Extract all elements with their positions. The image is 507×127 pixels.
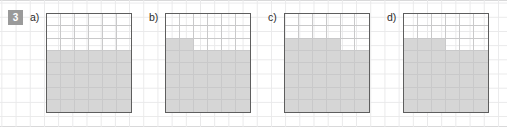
grid-cell bbox=[432, 88, 446, 100]
grid-cell bbox=[418, 75, 432, 87]
grid-cell bbox=[236, 14, 250, 26]
grid-cell bbox=[285, 63, 299, 75]
grid-cell bbox=[61, 51, 75, 63]
panel-b: b) bbox=[149, 11, 261, 117]
grid-cell bbox=[117, 75, 131, 87]
grid-cell bbox=[89, 63, 103, 75]
grid-cell bbox=[47, 100, 61, 112]
page-rule-bottom bbox=[0, 126, 507, 127]
grid-cell bbox=[313, 26, 327, 38]
grid-cell bbox=[418, 39, 432, 51]
grid-cell bbox=[180, 88, 194, 100]
panel-c-box bbox=[284, 13, 370, 113]
grid-cell bbox=[89, 14, 103, 26]
grid-cell bbox=[103, 26, 117, 38]
grid-cell bbox=[460, 39, 474, 51]
grid-cell bbox=[75, 26, 89, 38]
grid-cell bbox=[299, 75, 313, 87]
grid-cell bbox=[404, 39, 418, 51]
panel-c-grid bbox=[285, 14, 369, 112]
grid-cell bbox=[47, 39, 61, 51]
grid-cell bbox=[327, 63, 341, 75]
grid-cell bbox=[313, 100, 327, 112]
grid-cell bbox=[404, 51, 418, 63]
grid-cell bbox=[474, 39, 488, 51]
grid-cell bbox=[61, 100, 75, 112]
grid-cell bbox=[194, 75, 208, 87]
grid-cell bbox=[418, 63, 432, 75]
grid-cell bbox=[166, 14, 180, 26]
grid-cell bbox=[418, 51, 432, 63]
grid-cell bbox=[117, 100, 131, 112]
grid-cell bbox=[166, 26, 180, 38]
grid-cell bbox=[180, 26, 194, 38]
grid-cell bbox=[355, 100, 369, 112]
grid-cell bbox=[313, 14, 327, 26]
grid-cell bbox=[117, 51, 131, 63]
grid-cell bbox=[460, 26, 474, 38]
grid-cell bbox=[327, 51, 341, 63]
grid-cell bbox=[446, 63, 460, 75]
grid-cell bbox=[418, 88, 432, 100]
grid-cell bbox=[222, 63, 236, 75]
grid-cell bbox=[208, 51, 222, 63]
grid-cell bbox=[432, 63, 446, 75]
grid-cell bbox=[299, 39, 313, 51]
grid-cell bbox=[474, 63, 488, 75]
grid-cell bbox=[208, 26, 222, 38]
grid-cell bbox=[180, 63, 194, 75]
panel-a-box bbox=[46, 13, 132, 113]
panel-b-grid bbox=[166, 14, 250, 112]
grid-cell bbox=[47, 14, 61, 26]
grid-cell bbox=[446, 100, 460, 112]
grid-cell bbox=[446, 39, 460, 51]
grid-cell bbox=[355, 14, 369, 26]
grid-cell bbox=[61, 75, 75, 87]
grid-cell bbox=[418, 14, 432, 26]
grid-cell bbox=[117, 14, 131, 26]
grid-cell bbox=[208, 63, 222, 75]
grid-cell bbox=[474, 75, 488, 87]
grid-cell bbox=[460, 14, 474, 26]
grid-cell bbox=[117, 39, 131, 51]
grid-cell bbox=[208, 88, 222, 100]
grid-cell bbox=[166, 51, 180, 63]
page-rule-top bbox=[0, 0, 507, 1]
grid-cell bbox=[47, 63, 61, 75]
grid-cell bbox=[299, 14, 313, 26]
grid-cell bbox=[285, 51, 299, 63]
grid-cell bbox=[47, 75, 61, 87]
grid-cell bbox=[166, 63, 180, 75]
grid-cell bbox=[222, 39, 236, 51]
grid-cell bbox=[194, 14, 208, 26]
grid-cell bbox=[75, 51, 89, 63]
grid-cell bbox=[432, 39, 446, 51]
grid-cell bbox=[404, 14, 418, 26]
grid-cell bbox=[194, 63, 208, 75]
grid-cell bbox=[327, 39, 341, 51]
grid-cell bbox=[285, 39, 299, 51]
grid-cell bbox=[61, 63, 75, 75]
grid-cell bbox=[432, 51, 446, 63]
grid-cell bbox=[299, 51, 313, 63]
grid-cell bbox=[75, 63, 89, 75]
grid-cell bbox=[474, 88, 488, 100]
grid-cell bbox=[446, 75, 460, 87]
grid-cell bbox=[61, 26, 75, 38]
grid-cell bbox=[313, 88, 327, 100]
grid-cell bbox=[75, 88, 89, 100]
grid-cell bbox=[208, 100, 222, 112]
grid-cell bbox=[460, 63, 474, 75]
grid-cell bbox=[180, 75, 194, 87]
grid-cell bbox=[355, 63, 369, 75]
grid-cell bbox=[418, 26, 432, 38]
grid-cell bbox=[313, 63, 327, 75]
grid-cell bbox=[404, 100, 418, 112]
grid-cell bbox=[341, 100, 355, 112]
grid-cell bbox=[285, 88, 299, 100]
grid-cell bbox=[474, 100, 488, 112]
grid-cell bbox=[432, 14, 446, 26]
panel-d: d) bbox=[387, 11, 499, 117]
grid-cell bbox=[341, 14, 355, 26]
grid-cell bbox=[194, 88, 208, 100]
